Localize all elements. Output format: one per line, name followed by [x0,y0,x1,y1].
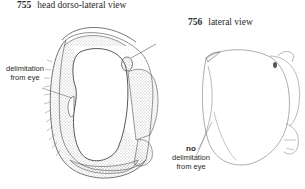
annotation-emphasis: no [160,144,222,153]
annotation-line2: from eye [10,73,39,82]
annotation-no-delimitation-756: no delimitation from eye [160,144,222,171]
annotation-line1: delimitation [6,64,44,73]
illustrations [0,0,305,189]
annotation-line2: from eye [176,162,205,171]
annotation-line1: delimitation [172,153,210,162]
figure-755-drawing [42,27,158,178]
annotation-delimitation-755: delimitation from eye [0,64,50,82]
